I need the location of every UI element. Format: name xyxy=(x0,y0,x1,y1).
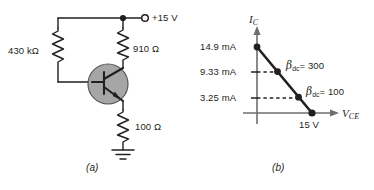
emitter-resistor-zigzag xyxy=(118,110,129,150)
y-tick-label-3p25: 3.25 mA xyxy=(200,93,236,103)
base-resistor-label: 430 kΩ xyxy=(8,46,39,56)
emitter-resistor-label: 100 Ω xyxy=(135,122,161,132)
beta-100-annotation: βdc= 100 xyxy=(306,86,344,98)
beta-300-subscript: dc xyxy=(292,65,299,72)
y-axis-subscript: C xyxy=(253,18,258,27)
data-point-beta-100 xyxy=(295,94,302,101)
beta-300-value: = 300 xyxy=(300,60,325,71)
beta-300-annotation: βdc= 300 xyxy=(286,60,324,72)
y-axis-ticks xyxy=(251,72,257,98)
panel-a-circuit-diagram: 430 kΩ 910 Ω 100 Ω +15 V (a) xyxy=(0,0,187,190)
base-resistor-zigzag xyxy=(53,28,64,82)
data-point-beta-300 xyxy=(274,68,281,75)
data-point-cutoff xyxy=(308,109,315,116)
x-axis-symbol: V xyxy=(342,107,349,119)
ground-symbol-art xyxy=(112,150,134,159)
x-tick-label-15v: 15 V xyxy=(299,120,319,130)
figure-container: 430 kΩ 910 Ω 100 Ω +15 V (a) xyxy=(0,0,374,190)
y-tick-label-9p33: 9.33 mA xyxy=(200,67,236,77)
supply-junction-dot xyxy=(120,15,126,21)
panel-b-load-line-graph: IC VCE 14.9 mA 9.33 mA 3.25 mA 15 V βdc=… xyxy=(187,0,374,190)
x-axis-arrowhead xyxy=(330,109,339,116)
supply-voltage-label: +15 V xyxy=(152,13,178,23)
beta-100-value: = 100 xyxy=(320,86,345,97)
x-axis-label: VCE xyxy=(342,108,359,121)
x-axis-subscript: CE xyxy=(349,112,359,121)
y-tick-label-14p9: 14.9 mA xyxy=(200,42,236,52)
y-axis-arrowhead xyxy=(253,26,260,35)
panel-a-caption: (a) xyxy=(86,163,99,173)
data-point-saturation xyxy=(254,44,261,51)
dc-load-line xyxy=(257,47,312,113)
panel-b-caption: (b) xyxy=(272,163,285,173)
transistor-envelope xyxy=(88,64,128,104)
y-axis-label: IC xyxy=(249,14,258,27)
collector-resistor-zigzag xyxy=(118,28,129,68)
supply-terminal-circle xyxy=(142,15,149,22)
beta-100-subscript: dc xyxy=(312,91,319,98)
collector-resistor-label: 910 Ω xyxy=(133,44,159,54)
